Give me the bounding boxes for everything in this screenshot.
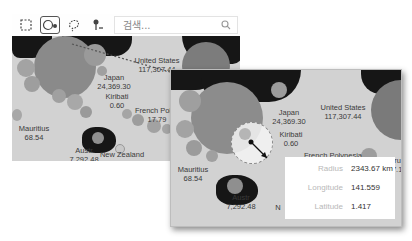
label-new-zealand: New Zealand739.67 [100, 150, 144, 161]
label-mauritius: Mauritius68.54 [19, 124, 49, 142]
search-input[interactable] [121, 19, 221, 32]
pin-select-button[interactable] [88, 16, 108, 34]
radius-value: 2343.67 km [351, 164, 393, 174]
label-mauritius: Mauritius68.54 [178, 165, 208, 183]
search-icon[interactable] [221, 20, 231, 30]
search-box[interactable] [114, 16, 238, 34]
radius-select-button[interactable] [40, 16, 60, 34]
label-australia: Austr7,292.48 [69, 146, 98, 161]
lasso-select-button[interactable] [64, 16, 84, 34]
label-new-zealand-partial: N [275, 203, 280, 212]
pin-select-icon [91, 18, 105, 32]
rectangle-select-button[interactable] [16, 16, 36, 34]
label-kiribati: Kiribati0.60 [280, 130, 303, 148]
radius-select-icon [42, 19, 58, 31]
lasso-select-icon [67, 18, 81, 32]
radius-key: Radius [285, 164, 343, 174]
latitude-value: 1.417 [351, 202, 371, 212]
label-kiribati: Kiribati0.60 [106, 92, 129, 110]
label-japan: Japan24,369.30 [97, 73, 130, 91]
label-japan: Japan24,369.30 [272, 108, 305, 126]
label-united-states: United States117,307.44 [320, 103, 365, 121]
latitude-key: Latitude [285, 202, 343, 212]
longitude-value: 141.559 [351, 183, 380, 193]
map-toolbar [12, 14, 248, 36]
rectangle-select-icon [20, 19, 32, 31]
radius-info-panel: Radius 2343.67 km Longitude 141.559 Lati… [285, 157, 395, 219]
label-australia: Austr7,292.48 [226, 193, 255, 211]
longitude-key: Longitude [285, 183, 343, 193]
